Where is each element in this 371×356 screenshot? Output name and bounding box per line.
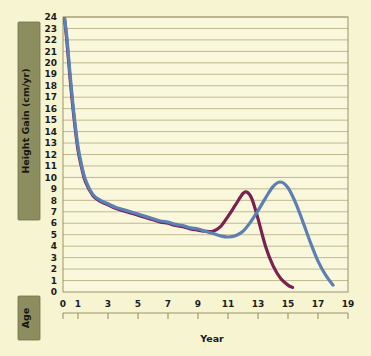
y-tick-label: 21 — [44, 47, 57, 57]
y-tick-label: 17 — [44, 92, 57, 102]
y-tick-label: 3 — [51, 253, 57, 263]
y-tick-label: 16 — [44, 104, 57, 114]
y-axis-band-label: Height Gain (cm/yr) — [20, 68, 31, 173]
x-tick-label: 7 — [165, 299, 171, 309]
x-tick-label: 0 — [60, 299, 66, 309]
y-tick-label: 11 — [44, 161, 57, 171]
y-tick-label: 5 — [51, 230, 57, 240]
y-tick-label: 23 — [44, 24, 57, 34]
y-tick-label: 9 — [51, 184, 57, 194]
y-tick-label: 12 — [44, 150, 57, 160]
chart-canvas: 0123456789101112131415161718192021222324… — [0, 0, 371, 356]
y-tick-label: 2 — [51, 264, 57, 274]
x-tick-label: 3 — [105, 299, 111, 309]
y-tick-label: 22 — [44, 35, 57, 45]
age-band-label: Age — [20, 308, 31, 329]
x-axis-age-band: Age — [18, 296, 40, 340]
y-tick-label: 4 — [51, 241, 57, 251]
y-tick-label: 15 — [44, 115, 57, 125]
y-tick-label: 19 — [44, 69, 57, 79]
y-tick-label: 24 — [44, 12, 57, 22]
x-tick-label: 13 — [252, 299, 265, 309]
x-axis-title: Year — [199, 333, 224, 344]
x-tick-label: 19 — [342, 299, 355, 309]
x-tick-label: 9 — [195, 299, 201, 309]
y-axis-tick-labels: 0123456789101112131415161718192021222324 — [44, 12, 57, 297]
y-tick-label: 10 — [44, 173, 57, 183]
y-axis-title-band: Height Gain (cm/yr) — [18, 22, 40, 220]
y-tick-label: 7 — [51, 207, 57, 217]
x-tick-label: 5 — [135, 299, 141, 309]
y-tick-label: 8 — [51, 196, 57, 206]
y-tick-label: 20 — [44, 58, 57, 68]
x-tick-label: 1 — [75, 299, 81, 309]
growth-velocity-chart: 0123456789101112131415161718192021222324… — [0, 0, 371, 356]
x-axis-tick-labels: 0135791113151719 — [60, 299, 354, 309]
y-tick-label: 13 — [44, 138, 57, 148]
y-tick-label: 14 — [44, 127, 57, 137]
x-tick-label: 15 — [282, 299, 295, 309]
y-tick-label: 1 — [51, 276, 57, 286]
x-tick-label: 17 — [312, 299, 325, 309]
y-tick-label: 6 — [51, 218, 57, 228]
y-tick-label: 18 — [44, 81, 57, 91]
y-tick-label: 0 — [51, 287, 57, 297]
x-axis-line — [63, 313, 348, 319]
x-tick-label: 11 — [222, 299, 235, 309]
